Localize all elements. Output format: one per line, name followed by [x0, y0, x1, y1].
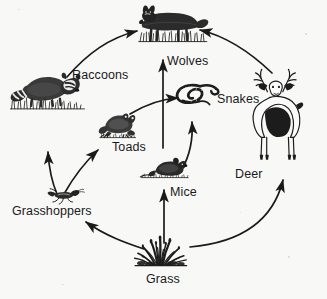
node-label-toads: Toads [112, 141, 146, 154]
node-label-wolves: Wolves [167, 55, 208, 68]
wolf-illustration [138, 5, 208, 41]
toad-illustration [99, 113, 136, 137]
food-web-diagram: Wolves Raccoons Snakes Deer Toads Mice G… [0, 0, 327, 299]
food-web-canvas [0, 0, 327, 299]
node-label-deer: Deer [235, 168, 263, 181]
edge-toads-to-snakes [130, 98, 178, 114]
edge-grass-to-deer [190, 180, 283, 247]
node-label-grasshoppers: Grasshoppers [12, 205, 92, 218]
edge-grass-to-grasshoppers [86, 222, 144, 249]
grass-illustration [135, 235, 187, 266]
edge-grasshoppers-to-raccoons [48, 152, 57, 194]
node-label-snakes: Snakes [217, 93, 259, 106]
mouse-illustration [140, 158, 188, 178]
node-label-mice: Mice [170, 186, 197, 199]
node-label-grass: Grass [146, 273, 180, 286]
edge-grasshoppers-to-toads [64, 150, 98, 194]
snake-illustration [177, 85, 218, 105]
deer-illustration [253, 69, 303, 159]
node-label-raccoons: Raccoons [72, 69, 128, 82]
edge-deer-to-wolves [200, 30, 272, 73]
